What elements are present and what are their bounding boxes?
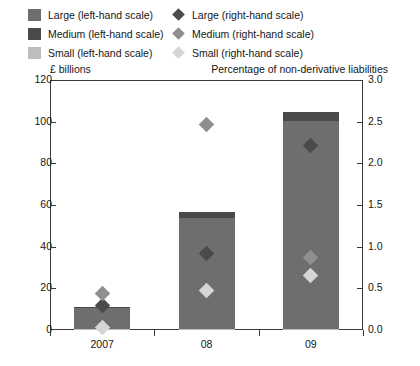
data-point-medium bbox=[199, 117, 214, 132]
chart-legend: Large (left-hand scale) Medium (left-han… bbox=[0, 0, 420, 62]
y-axis-tick-label: 0 bbox=[12, 324, 52, 335]
data-point-small bbox=[95, 320, 110, 335]
legend-item-large-right: Large (right-hand scale) bbox=[172, 6, 314, 23]
y2-axis-tick-mark bbox=[357, 163, 363, 164]
data-point-large bbox=[303, 138, 318, 153]
bar-segment-small bbox=[179, 329, 235, 330]
x-axis-tick-label: 2007 bbox=[72, 338, 132, 350]
left-axis-caption: £ billions bbox=[50, 63, 91, 75]
y-axis-tick-label: 60 bbox=[12, 199, 52, 210]
data-point-large bbox=[199, 246, 214, 261]
y-axis-tick-label: 100 bbox=[12, 116, 52, 127]
y-axis-tick-label: 40 bbox=[12, 241, 52, 252]
legend-item-medium-left: Medium (left-hand scale) bbox=[28, 25, 164, 42]
square-swatch-icon bbox=[28, 47, 41, 59]
y2-axis-tick-mark bbox=[357, 288, 363, 289]
y2-axis-tick-mark bbox=[357, 122, 363, 123]
y2-axis-tick-label: 3.0 bbox=[368, 74, 408, 85]
y2-axis-tick-label: 1.5 bbox=[368, 199, 408, 210]
x-axis-tick-label: 08 bbox=[177, 338, 237, 350]
x-axis-tick-mark bbox=[50, 330, 51, 336]
bar-segment-large bbox=[179, 218, 235, 328]
y-axis-tick-label: 20 bbox=[12, 282, 52, 293]
legend-label: Medium (left-hand scale) bbox=[48, 28, 164, 40]
y2-axis-tick-label: 2.5 bbox=[368, 116, 408, 127]
legend-item-medium-right: Medium (right-hand scale) bbox=[172, 25, 314, 42]
y-axis-tick-mark bbox=[50, 205, 56, 206]
legend-item-small-right: Small (right-hand scale) bbox=[172, 44, 314, 61]
right-axis-caption: Percentage of non-derivative liabilities bbox=[211, 63, 388, 75]
y-axis-tick-mark bbox=[50, 163, 56, 164]
square-swatch-icon bbox=[28, 28, 41, 40]
legend-label: Large (right-hand scale) bbox=[192, 9, 303, 21]
legend-column-left: Large (left-hand scale) Medium (left-han… bbox=[28, 6, 164, 63]
bar-segment-small bbox=[283, 329, 339, 330]
diamond-marker-icon bbox=[172, 27, 185, 40]
y2-axis-tick-mark bbox=[357, 247, 363, 248]
x-axis-tick-mark bbox=[363, 330, 364, 336]
bar-segment-medium bbox=[283, 112, 339, 120]
legend-label: Medium (right-hand scale) bbox=[192, 28, 314, 40]
y-axis-tick-label: 80 bbox=[12, 157, 52, 168]
y2-axis-tick-mark bbox=[357, 205, 363, 206]
y2-axis-tick-label: 0.5 bbox=[368, 282, 408, 293]
data-point-small bbox=[199, 283, 214, 298]
y-axis-tick-mark bbox=[50, 122, 56, 123]
y2-axis-tick-label: 2.0 bbox=[368, 157, 408, 168]
legend-item-large-left: Large (left-hand scale) bbox=[28, 6, 164, 23]
square-swatch-icon bbox=[28, 9, 41, 21]
legend-label: Small (left-hand scale) bbox=[48, 47, 152, 59]
x-axis-tick-label: 09 bbox=[281, 338, 341, 350]
y-axis-tick-mark bbox=[50, 288, 56, 289]
data-point-medium bbox=[95, 286, 110, 301]
y-axis-tick-mark bbox=[50, 247, 56, 248]
diamond-marker-icon bbox=[172, 46, 185, 59]
legend-column-right: Large (right-hand scale) Medium (right-h… bbox=[172, 6, 314, 63]
legend-label: Large (left-hand scale) bbox=[48, 9, 153, 21]
diamond-marker-icon bbox=[172, 8, 185, 21]
legend-label: Small (right-hand scale) bbox=[192, 47, 303, 59]
x-axis-tick-mark bbox=[154, 330, 155, 336]
data-point-medium bbox=[303, 250, 318, 265]
x-axis-tick-mark bbox=[259, 330, 260, 336]
data-point-small bbox=[303, 268, 318, 283]
y2-axis-tick-label: 1.0 bbox=[368, 241, 408, 252]
bar-group bbox=[179, 212, 235, 330]
chart-figure: Large (left-hand scale) Medium (left-han… bbox=[0, 0, 420, 366]
y2-axis-tick-label: 0.0 bbox=[368, 324, 408, 335]
y-axis-tick-label: 120 bbox=[12, 74, 52, 85]
legend-item-small-left: Small (left-hand scale) bbox=[28, 44, 164, 61]
